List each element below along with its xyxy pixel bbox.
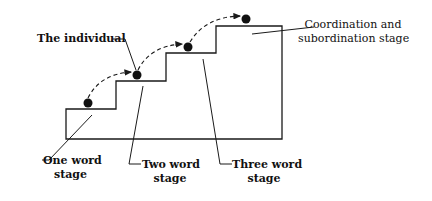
label-two-word: Two word stage [142, 158, 198, 186]
progress-arrow-3 [190, 16, 240, 42]
individual-dot-2 [133, 71, 142, 80]
label-one-word-line2: stage [43, 168, 98, 182]
label-three-word: Three word stage [232, 158, 296, 186]
label-coordination-line2: subordination stage [298, 32, 408, 46]
individual-dot-4 [242, 15, 251, 24]
label-two-word-line2: stage [142, 172, 198, 186]
label-one-word-line1: One word [43, 154, 98, 168]
label-coordination: Coordination and subordination stage [298, 18, 408, 46]
label-coordination-line1: Coordination and [298, 18, 408, 32]
label-individual: The individual [37, 32, 126, 46]
individual-dot-3 [184, 43, 193, 52]
progress-arrow-2 [138, 44, 182, 70]
progress-arrow-1 [88, 72, 131, 98]
individual-dot-1 [84, 99, 93, 108]
leader-two-word [129, 86, 143, 164]
label-three-word-line1: Three word [232, 158, 296, 172]
label-two-word-line1: Two word [142, 158, 198, 172]
label-three-word-line2: stage [232, 172, 296, 186]
label-one-word: One word stage [43, 154, 98, 182]
leader-three-word [203, 59, 232, 164]
